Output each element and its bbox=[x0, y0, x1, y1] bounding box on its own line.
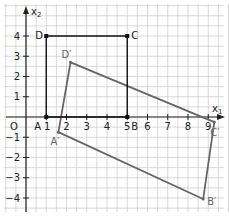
point-marker bbox=[213, 121, 216, 124]
x-tick-label: 3 bbox=[84, 121, 90, 132]
y-tick-label: 4 bbox=[14, 31, 20, 42]
y-tick-label: −3 bbox=[5, 172, 20, 183]
point-marker bbox=[202, 198, 205, 201]
x-tick-label: 4 bbox=[104, 121, 110, 132]
point-marker bbox=[125, 34, 129, 38]
y-tick-label: 1 bbox=[14, 91, 20, 102]
point-label-c: C bbox=[131, 30, 138, 41]
x-tick-label: 1 bbox=[44, 121, 50, 132]
x-tick-label: 8 bbox=[185, 121, 191, 132]
x-axis-label-sub: 1 bbox=[218, 108, 222, 116]
point-label-d: D bbox=[35, 30, 43, 41]
point-label-d-prime: D′ bbox=[62, 49, 73, 60]
y-tick-label: 2 bbox=[14, 71, 20, 82]
y-axis-label-sub: 2 bbox=[37, 11, 41, 19]
origin-label: O bbox=[10, 121, 18, 132]
x-tick-label: 2 bbox=[63, 121, 69, 132]
point-label-c-prime: C′ bbox=[210, 127, 220, 138]
y-tick-label: −2 bbox=[5, 152, 20, 163]
x-tick-label: 7 bbox=[165, 121, 171, 132]
y-axis-label: x2 bbox=[31, 6, 41, 19]
coordinate-diagram: 1234567894321−1−2−3−4Ox1x2ABCDA′B′C′D′ bbox=[0, 0, 229, 216]
point-marker bbox=[44, 115, 48, 119]
y-tick-label: 3 bbox=[14, 51, 20, 62]
y-tick-label: −1 bbox=[5, 132, 20, 143]
point-label-a: A bbox=[34, 121, 41, 132]
x-tick-label: 6 bbox=[144, 121, 150, 132]
point-marker bbox=[125, 115, 129, 119]
point-marker bbox=[57, 131, 60, 134]
x-axis-label: x1 bbox=[212, 103, 222, 116]
y-axis-arrow-icon bbox=[23, 6, 29, 14]
point-marker bbox=[44, 34, 48, 38]
y-tick-label: −4 bbox=[5, 193, 20, 204]
point-label-a-prime: A′ bbox=[50, 136, 60, 147]
point-marker bbox=[69, 61, 72, 64]
point-label-b-prime: B′ bbox=[207, 196, 217, 207]
x-tick-label: 5 bbox=[124, 121, 130, 132]
point-label-b: B bbox=[131, 121, 138, 132]
